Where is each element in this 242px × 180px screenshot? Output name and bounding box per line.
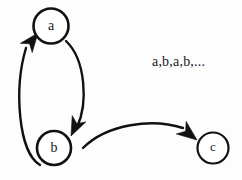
state-transition-diagram: a b c a,b,a,b,... (0, 0, 242, 180)
node-a-label: a (48, 18, 55, 33)
annotation-layer: a,b,a,b,... (152, 54, 205, 69)
edge-a-to-b-arrowhead (71, 116, 86, 136)
node-layer: a b c (34, 9, 229, 166)
edge-b-to-c-curve (83, 123, 183, 148)
edge-a-to-b-curve (66, 41, 84, 127)
edge-b-to-c-arrowhead (176, 121, 197, 140)
node-b[interactable]: b (37, 131, 71, 165)
edge-b-to-c[interactable] (83, 121, 197, 148)
diagram-svg-canvas: a b c a,b,a,b,... (0, 0, 242, 180)
node-a[interactable]: a (34, 9, 69, 44)
node-c-label: c (210, 139, 216, 154)
node-c[interactable]: c (198, 133, 229, 164)
node-b-label: b (51, 140, 58, 155)
edge-a-to-b[interactable] (66, 41, 86, 136)
sequence-label: a,b,a,b,... (152, 54, 205, 69)
